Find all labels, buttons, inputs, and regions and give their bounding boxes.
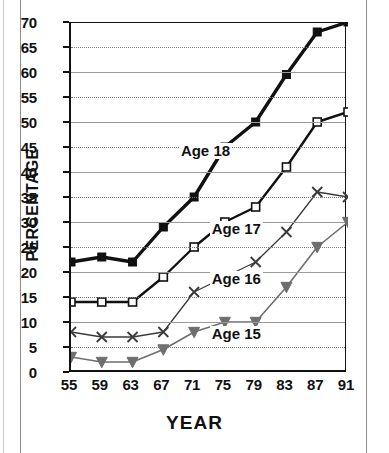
data-point-filled-square (71, 258, 75, 266)
x-tick-label: 67 (153, 377, 169, 392)
series-age-16 (71, 187, 348, 342)
series-label-age-17: Age 17 (210, 221, 263, 237)
gridline (71, 47, 345, 48)
y-tick-label: 65 (0, 40, 37, 55)
y-tick-label: 5 (0, 340, 37, 355)
series-label-age-15: Age 15 (210, 326, 263, 342)
x-tick-label: 79 (246, 377, 262, 392)
y-tick-label: 70 (0, 15, 37, 30)
series-age-15 (71, 217, 348, 367)
y-tick-label: 60 (0, 65, 37, 80)
y-tick-label: 55 (0, 90, 37, 105)
data-point-open-square (282, 163, 290, 171)
y-tick-label: 30 (0, 215, 37, 230)
y-tick-label: 35 (0, 190, 37, 205)
x-tick-label: 55 (61, 377, 77, 392)
data-point-open-square (159, 273, 167, 281)
plot-area: Age 18Age 17Age 16Age 15 (69, 22, 346, 372)
data-point-open-square (252, 203, 260, 211)
gridline (71, 72, 345, 73)
x-tick-label: 87 (307, 377, 323, 392)
y-tick-label: 40 (0, 165, 37, 180)
x-tick-label: 83 (276, 377, 292, 392)
gridline (71, 197, 345, 198)
series-label-age-18: Age 18 (179, 143, 232, 159)
gridline (71, 272, 345, 273)
data-point-filled-triangle-down (189, 327, 200, 337)
gridline (71, 222, 345, 223)
series-label-age-16: Age 16 (210, 271, 263, 287)
line-chart: PERCENTAGE YEAR 051015202530354045505560… (0, 0, 389, 453)
gridline (71, 97, 345, 98)
y-tick-label: 10 (0, 315, 37, 330)
x-tick-label: 59 (92, 377, 108, 392)
x-tick-label: 91 (338, 377, 354, 392)
data-point-open-square (71, 298, 75, 306)
data-point-filled-square (313, 28, 321, 36)
x-tick-label: 63 (122, 377, 138, 392)
x-tick-label: 71 (184, 377, 200, 392)
gridline (71, 297, 345, 298)
x-axis-title: YEAR (0, 412, 389, 434)
y-tick-label: 25 (0, 240, 37, 255)
x-tick-label: 75 (215, 377, 231, 392)
data-point-filled-square (159, 223, 167, 231)
gridline (71, 22, 345, 23)
data-point-open-square (98, 298, 106, 306)
data-point-open-square (344, 108, 348, 116)
gridline (71, 247, 345, 248)
y-tick-label: 0 (0, 365, 37, 380)
gridline (71, 322, 345, 323)
gridline (71, 122, 345, 123)
y-tick-label: 45 (0, 140, 37, 155)
series-line (71, 192, 348, 337)
data-point-filled-square (98, 253, 106, 261)
y-tick-label: 20 (0, 265, 37, 280)
data-point-open-square (129, 298, 137, 306)
y-tick-label: 15 (0, 290, 37, 305)
gridline (71, 172, 345, 173)
data-point-x-cross (281, 227, 291, 237)
y-tick-label: 50 (0, 115, 37, 130)
gridline (71, 347, 345, 348)
data-point-filled-square (129, 258, 137, 266)
data-point-x-cross (251, 257, 261, 267)
data-point-x-cross (189, 287, 199, 297)
